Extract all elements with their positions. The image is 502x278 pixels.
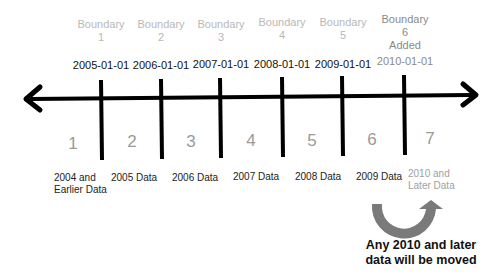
partition-6-label: 2009 Data [356, 171, 402, 183]
boundary-5-title: Boundary [308, 16, 378, 29]
partition-4-label: 2007 Data [233, 171, 279, 183]
partition-1-label: 2004 and Earlier Data [54, 172, 107, 196]
boundary-line-1 [101, 80, 102, 160]
boundary-4-title: Boundary [247, 16, 317, 29]
boundary-5-index: 5 [308, 29, 378, 42]
boundary-6-name: Boundary 6 Added [370, 13, 440, 52]
partition-6-number: 6 [357, 130, 387, 150]
boundary-4-date: 2008-01-01 [247, 58, 317, 71]
boundary-5-name: Boundary 5 [308, 16, 378, 42]
partition-2-label: 2005 Data [111, 172, 157, 184]
boundary-3-title: Boundary [186, 18, 256, 31]
partition-7-label-line2: Later Data [408, 180, 455, 192]
boundary-6-date: 2010-01-01 [370, 55, 440, 68]
boundary-line-5 [342, 76, 343, 156]
partition-2-number: 2 [117, 132, 147, 152]
boundary-4-name: Boundary 4 [247, 16, 317, 42]
boundary-line-2 [161, 79, 162, 159]
move-note-line2: data will be moved [346, 253, 496, 268]
partition-1-label-line2: Earlier Data [54, 184, 107, 196]
boundary-line-6 [404, 75, 405, 155]
partition-4-number: 4 [236, 131, 266, 151]
boundary-6-title: Boundary [370, 13, 440, 26]
partition-7-label: 2010 and Later Data [408, 168, 455, 192]
partition-1-number: 1 [58, 134, 88, 154]
boundary-6-added: Added [370, 39, 440, 52]
partition-3-number: 3 [176, 132, 206, 152]
boundary-4-index: 4 [247, 29, 317, 42]
boundary-line-3 [220, 78, 221, 158]
partition-7-number: 7 [415, 129, 445, 149]
move-arrow-icon [372, 200, 443, 239]
partition-5-number: 5 [297, 131, 327, 151]
move-note: Any 2010 and later data will be moved [346, 238, 496, 268]
partition-7-label-line1: 2010 and [408, 168, 455, 180]
boundary-3-name: Boundary 3 [186, 18, 256, 44]
move-note-line1: Any 2010 and later [346, 238, 496, 253]
boundary-6-index: 6 [370, 26, 440, 39]
partition-5-label: 2008 Data [295, 171, 341, 183]
boundary-3-date: 2007-01-01 [186, 58, 256, 71]
partition-1-label-line1: 2004 and [54, 172, 107, 184]
boundary-line-4 [282, 77, 283, 157]
partition-3-label: 2006 Data [172, 172, 218, 184]
boundary-3-index: 3 [186, 31, 256, 44]
boundary-5-date: 2009-01-01 [308, 58, 378, 71]
